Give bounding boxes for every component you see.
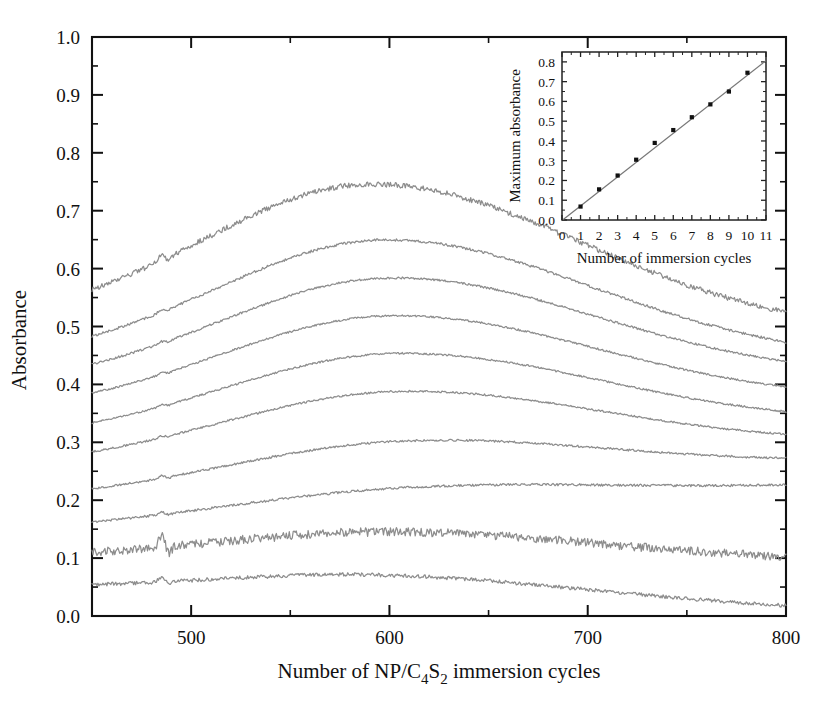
y-tick-label: 1.0: [56, 27, 80, 48]
inset-data-point: [616, 173, 620, 177]
y-axis-label: Absorbance: [7, 290, 31, 390]
y-tick-label: 0.9: [56, 85, 80, 106]
figure-uv-vis-absorbance-spectra: 5006007008000.00.10.20.30.40.50.60.70.80…: [0, 0, 819, 710]
x-tick-label: 800: [772, 627, 801, 648]
y-tick-label: 0.7: [56, 201, 80, 222]
inset-x-tick-label: 1: [577, 228, 584, 243]
inset-y-tick-label: 0.8: [538, 55, 555, 70]
inset-y-tick-label: 0.7: [538, 75, 555, 90]
spectrum-curve: [92, 573, 786, 607]
inset-x-axis-label: Number of immersion cycles: [577, 250, 752, 266]
x-tick-label: 500: [177, 627, 206, 648]
inset-data-point: [597, 187, 601, 191]
inset-data-point: [745, 71, 749, 75]
inset-y-tick-label: 0.6: [538, 94, 555, 109]
y-tick-label: 0.1: [56, 548, 80, 569]
y-tick-label: 0.3: [56, 432, 80, 453]
inset-x-tick-label: 6: [670, 228, 677, 243]
y-tick-label: 0.2: [56, 490, 80, 511]
y-tick-label: 0.5: [56, 317, 80, 338]
inset-y-tick-label: 0.5: [538, 114, 555, 129]
spectra-curve-group: [92, 182, 786, 607]
spectrum-curve: [92, 439, 786, 489]
inset-data-point: [690, 115, 694, 119]
inset-data-point: [708, 102, 712, 106]
inset-x-tick-label: 7: [688, 228, 695, 243]
inset-chart: 012345678910110.00.10.20.30.40.50.60.70.…: [507, 52, 773, 266]
spectrum-curve: [92, 528, 786, 561]
spectrum-curve: [92, 483, 786, 522]
y-tick-label: 0.8: [56, 143, 80, 164]
inset-y-tick-label: 0.4: [538, 134, 555, 149]
inset-x-tick-label: 9: [726, 228, 733, 243]
inset-x-tick-label: 2: [596, 228, 603, 243]
inset-y-tick-label: 0.1: [538, 193, 555, 208]
inset-data-point: [634, 158, 638, 162]
inset-data-point: [671, 128, 675, 132]
y-tick-label: 0.0: [56, 606, 80, 627]
x-tick-label: 600: [375, 627, 404, 648]
inset-data-point: [727, 89, 731, 93]
spectrum-curve: [92, 277, 786, 364]
inset-x-tick-label: 5: [651, 228, 658, 243]
y-tick-label: 0.6: [56, 259, 80, 280]
y-tick-label: 0.4: [56, 374, 80, 395]
inset-data-point: [578, 204, 582, 208]
inset-y-tick-label: 0.2: [538, 173, 555, 188]
inset-x-tick-label: 3: [614, 228, 621, 243]
inset-x-tick-label: 8: [707, 228, 714, 243]
spectrum-curve: [92, 390, 786, 452]
inset-x-tick-label: 11: [760, 228, 773, 243]
inset-x-tick-label: 10: [741, 228, 755, 243]
x-axis-label: Number of NP/C4​S2​ immersion cycles: [278, 659, 601, 687]
inset-x-tick-label: 4: [633, 228, 640, 243]
inset-background: [562, 52, 766, 220]
inset-data-point: [653, 141, 657, 145]
inset-y-tick-label: 0.3: [538, 154, 555, 169]
main-chart-svg: 5006007008000.00.10.20.30.40.50.60.70.80…: [0, 0, 819, 710]
inset-x-tick-label: 0: [559, 228, 566, 243]
inset-y-tick-label: 0.0: [538, 213, 555, 228]
inset-y-axis-label: Maximum absorbance: [507, 69, 523, 203]
x-tick-label: 700: [573, 627, 602, 648]
